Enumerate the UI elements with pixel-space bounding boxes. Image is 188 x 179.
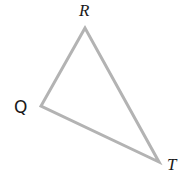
triangle-diagram bbox=[0, 0, 188, 179]
vertex-label-r: R bbox=[79, 2, 89, 19]
vertex-label-t: T bbox=[167, 156, 176, 173]
vertex-label-q: Q bbox=[14, 99, 27, 116]
triangle-qrt bbox=[41, 28, 159, 162]
